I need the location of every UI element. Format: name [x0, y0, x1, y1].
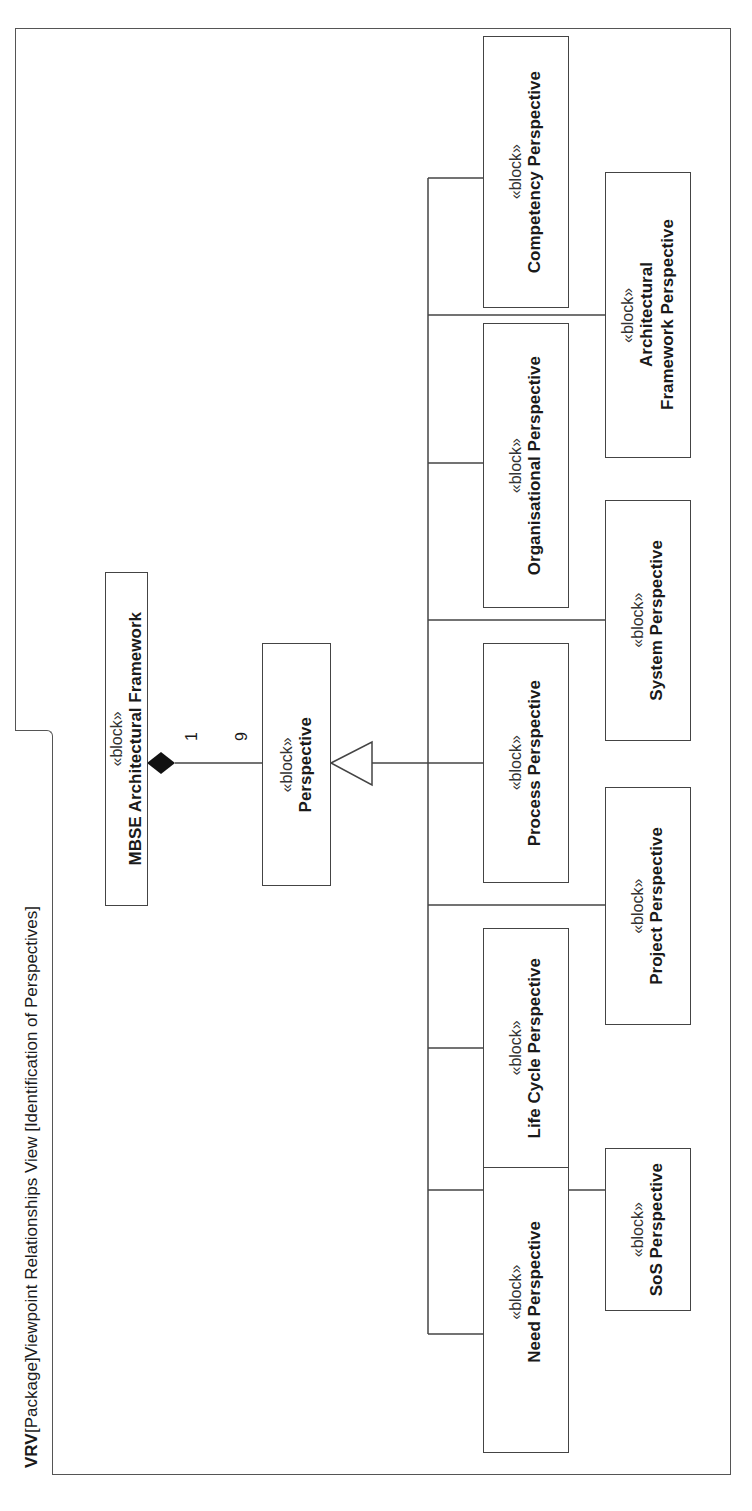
block-name: Architectural Framework Perspective: [637, 215, 678, 415]
block-name: System Perspective: [647, 540, 667, 701]
stereotype-label: «block»: [506, 680, 525, 846]
block-project-perspective[interactable]: «block» Project Perspective: [605, 787, 691, 1025]
multiplicity-whole: 1: [183, 732, 201, 741]
stereotype-label: «block»: [628, 827, 647, 985]
stereotype-label: «block»: [277, 717, 296, 812]
block-architectural-framework-perspective[interactable]: «block» Architectural Framework Perspect…: [605, 172, 691, 458]
block-name: MBSE Architectural Framework: [126, 612, 146, 866]
stereotype-label: «block»: [506, 71, 525, 273]
stereotype-label: «block»: [506, 958, 525, 1138]
stereotype-label: «block»: [618, 215, 637, 415]
multiplicity-part: 9: [233, 732, 251, 741]
block-system-perspective[interactable]: «block» System Perspective: [605, 500, 691, 741]
stereotype-label: «block»: [506, 1221, 525, 1363]
block-name: SoS Perspective: [647, 1163, 667, 1296]
block-mbse-architectural-framework[interactable]: «block» MBSE Architectural Framework: [105, 572, 148, 906]
generalization-triangle-icon: [331, 742, 372, 785]
block-process-perspective[interactable]: «block» Process Perspective: [483, 643, 569, 883]
block-name: Project Perspective: [647, 827, 667, 985]
block-organisational-perspective[interactable]: «block» Organisational Perspective: [483, 323, 569, 608]
stereotype-label: «block»: [628, 540, 647, 701]
block-name: Organisational Perspective: [525, 356, 545, 575]
block-name: Life Cycle Perspective: [525, 958, 545, 1138]
block-need-perspective[interactable]: «block» Need Perspective: [483, 1130, 569, 1453]
block-perspective[interactable]: «block» Perspective: [262, 643, 331, 886]
composition-diamond-icon: [147, 752, 175, 774]
block-competency-perspective[interactable]: «block» Competency Perspective: [483, 36, 569, 308]
block-name: Process Perspective: [525, 680, 545, 846]
block-name: Need Perspective: [525, 1221, 545, 1363]
stereotype-label: «block»: [107, 612, 126, 866]
block-sos-perspective[interactable]: «block» SoS Perspective: [605, 1148, 691, 1311]
block-name: Perspective: [296, 717, 316, 812]
stereotype-label: «block»: [506, 356, 525, 575]
stereotype-label: «block»: [628, 1163, 647, 1296]
block-name: Competency Perspective: [525, 71, 545, 273]
block-life-cycle-perspective[interactable]: «block» Life Cycle Perspective: [483, 928, 569, 1168]
